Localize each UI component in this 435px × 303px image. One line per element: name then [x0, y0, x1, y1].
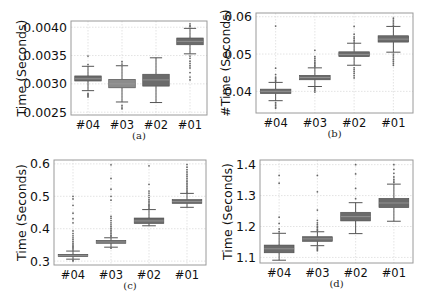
outlier-point	[186, 164, 188, 166]
outlier-point	[186, 173, 188, 175]
outlier-point	[393, 180, 395, 182]
box-n02	[339, 26, 370, 79]
y-axis-label: Time (Seconds)	[220, 163, 235, 261]
outlier-point	[278, 223, 280, 225]
outlier-point	[72, 259, 74, 261]
svg-text:#03: #03	[110, 118, 134, 132]
outlier-point	[316, 219, 318, 221]
outlier-point	[148, 199, 150, 201]
svg-text:#04: #04	[267, 266, 291, 280]
outlier-point	[316, 222, 318, 224]
outlier-point	[353, 67, 355, 69]
outlier-point	[72, 222, 74, 224]
outlier-point	[353, 40, 355, 42]
outlier-point	[275, 102, 277, 104]
svg-text:0.6: 0.6	[30, 156, 50, 171]
outlier-point	[110, 217, 112, 219]
outlier-point	[314, 61, 316, 63]
outlier-point	[186, 184, 188, 186]
box-n01	[172, 164, 202, 208]
y-axis-ticks: 1.11.21.31.4	[236, 157, 256, 265]
outlier-point	[72, 230, 74, 232]
box-n02	[341, 164, 371, 234]
outlier-point	[110, 164, 112, 166]
box-n01	[177, 23, 204, 81]
outlier-point	[186, 182, 188, 184]
boxplot-panel-c: 0.30.40.50.6#04#03#02#01Time (Seconds)(c…	[0, 150, 218, 303]
y-axis-ticks: 0.00250.00300.00350.0040	[23, 20, 67, 120]
outlier-point	[186, 177, 188, 179]
outlier-point	[72, 242, 74, 244]
outlier-point	[72, 198, 74, 200]
outlier-point	[392, 61, 394, 63]
outlier-point	[110, 231, 112, 233]
outlier-point	[110, 215, 112, 217]
outlier-point	[353, 26, 355, 28]
plot-frame	[54, 160, 206, 265]
outlier-point	[392, 64, 394, 66]
outlier-point	[186, 175, 188, 177]
outlier-point	[316, 226, 318, 228]
box-n03	[300, 49, 331, 93]
outlier-point	[72, 218, 74, 220]
svg-text:0.3: 0.3	[30, 254, 50, 269]
svg-text:#02: #02	[144, 118, 168, 132]
svg-text:#01: #01	[382, 266, 406, 280]
outlier-point	[72, 237, 74, 239]
svg-text:#01: #01	[175, 268, 199, 282]
outlier-point	[110, 228, 112, 230]
outlier-point	[186, 187, 188, 189]
outlier-point	[189, 65, 191, 67]
outlier-point	[275, 76, 277, 78]
outlier-point	[148, 197, 150, 199]
outlier-point	[278, 231, 280, 233]
grid-lines	[256, 13, 413, 113]
outlier-point	[148, 183, 150, 185]
outlier-point	[393, 172, 395, 174]
outlier-point	[189, 57, 191, 59]
outlier-point	[275, 25, 277, 27]
outlier-point	[189, 76, 191, 78]
outlier-point	[189, 55, 191, 57]
grid-lines	[71, 21, 207, 115]
outlier-point	[121, 106, 123, 108]
outlier-point	[353, 71, 355, 73]
outlier-point	[186, 169, 188, 171]
plot-frame	[256, 13, 413, 113]
svg-text:1.3: 1.3	[236, 188, 256, 203]
boxplot-panel-b: 0.040.050.06#04#03#02#01#Time (Seconds)(…	[218, 0, 435, 150]
outlier-point	[121, 63, 123, 65]
outlier-point	[189, 60, 191, 62]
outlier-point	[275, 74, 277, 76]
outlier-point	[186, 181, 188, 183]
outlier-point	[148, 165, 150, 167]
svg-text:#03: #03	[99, 268, 123, 282]
outlier-point	[353, 73, 355, 75]
outlier-point	[148, 192, 150, 194]
outlier-point	[110, 224, 112, 226]
outlier-point	[353, 36, 355, 38]
outlier-point	[186, 166, 188, 168]
outlier-point	[148, 194, 150, 196]
outlier-point	[148, 203, 150, 205]
outlier-point	[392, 53, 394, 55]
box-n03	[96, 164, 126, 249]
outlier-point	[186, 171, 188, 173]
svg-text:#01: #01	[381, 116, 405, 130]
outlier-point	[393, 176, 395, 178]
box-n01	[378, 17, 409, 66]
outlier-point	[72, 244, 74, 246]
outlier-point	[393, 164, 395, 166]
outlier-point	[110, 199, 112, 201]
svg-text:0.0030: 0.0030	[23, 76, 67, 91]
svg-text:#01: #01	[178, 118, 202, 132]
svg-text:0.0040: 0.0040	[23, 20, 67, 35]
y-axis-ticks: 0.30.40.50.6	[30, 156, 50, 268]
box-n03	[302, 175, 332, 252]
plot-frame	[71, 21, 207, 115]
outlier-point	[355, 188, 357, 190]
outlier-point	[314, 49, 316, 51]
outlier-point	[392, 23, 394, 25]
outlier-point	[353, 75, 355, 77]
svg-text:#03: #03	[305, 266, 329, 280]
